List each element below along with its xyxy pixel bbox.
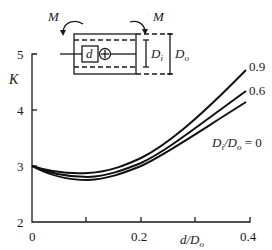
hole-label: d — [86, 47, 93, 60]
y-axis-label: K — [9, 73, 18, 87]
y-tick-label-2: 2 — [17, 216, 24, 229]
moment-label-left: M — [48, 10, 59, 23]
moment-label-right: M — [153, 10, 164, 23]
curve-label-0: Di/Do = 0 — [212, 136, 262, 152]
inner-diameter-label: Di — [151, 47, 163, 63]
moment-arrow-left — [63, 21, 83, 31]
outer-diameter-label: Do — [175, 47, 189, 63]
curve-label-0.9: 0.9 — [249, 60, 265, 73]
y-tick-label-5: 5 — [17, 48, 24, 61]
curve-label-0.6: 0.6 — [249, 84, 265, 97]
x-tick-label-0: 0 — [29, 230, 36, 243]
y-tick-label-3: 3 — [17, 160, 24, 173]
y-tick-label-4: 4 — [17, 104, 24, 117]
curves — [32, 70, 246, 180]
chart-canvas — [0, 0, 272, 250]
x-tick-label-0.2: 0.2 — [131, 230, 147, 243]
curve-0.6 — [32, 91, 246, 177]
x-axis-label: d/Do — [180, 233, 204, 249]
moment-arrow-right — [130, 21, 145, 30]
x-tick-label-0.4: 0.4 — [240, 230, 256, 243]
